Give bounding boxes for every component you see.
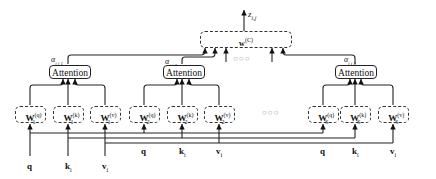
weight-box-q-head-1: W(q)1 [15,106,46,123]
attention-box-head-1: Attention [49,65,91,79]
w-sup: (k) [73,112,80,118]
input-q-label-head-2: q [141,146,146,156]
attention-box-head-s: Attention [335,65,377,79]
w-sup: (q) [327,112,334,118]
w-sup: (v) [397,112,404,118]
w-sup: (q) [35,112,42,118]
weight-box-k-head-1: W(k)1 [53,106,84,123]
input-k-label: ki [65,161,72,173]
input-sub: i [357,152,359,158]
w-sub: 1 [71,119,74,125]
input-base: q [141,146,146,156]
w-sub: 1 [33,119,36,125]
w-sup: (k) [359,112,366,118]
input-v-label-head-2: vi [216,146,222,158]
weight-box-v-head-s: W(v)S [378,106,409,123]
ellipsis-top: ○○○ [233,54,251,63]
output-weight-sup: (C) [245,37,253,43]
w-sup: (v) [224,112,231,118]
output-weight-box: w(C) [200,31,292,48]
input-base: q [27,161,32,171]
w-sup: (q) [149,112,156,118]
w-sub: 2 [185,119,188,125]
input-base: q [320,146,325,156]
weight-box-k-head-s: W(k)S [340,106,371,123]
weight-box-k-head-2: W(k)2 [167,106,198,123]
w-sup: (k) [187,112,194,118]
w-sup: (v) [110,112,117,118]
input-sub: i [107,167,109,173]
output-z-label: zi,j [248,10,256,21]
w-sub: S [395,119,398,125]
weight-box-q-head-2: W(q)2 [129,106,160,123]
weight-box-v-head-2: W(v)2 [204,106,235,123]
weight-box-q-head-s: W(q)S [308,106,339,123]
input-v-label-head-s: vi [390,146,396,158]
weight-box-v-head-1: W(v)1 [90,106,121,123]
w-sub: 1 [108,119,111,125]
input-sub: i [70,167,72,173]
input-sub: i [184,152,186,158]
input-sub: i [221,152,223,158]
input-sub: i [395,152,397,158]
input-k-label-head-2: ki [179,146,186,158]
attention-box-head-2: Attention [163,65,205,79]
input-q-label-head-s: q [320,146,325,156]
w-sub: 2 [222,119,225,125]
w-sub: S [357,119,360,125]
input-v-label: vi [102,161,108,173]
output-z-sub: i,j [252,15,257,21]
input-q-label: q [27,161,32,171]
input-k-label-head-s: ki [352,146,359,158]
w-sub: S [325,119,328,125]
ellipsis-heads: ○○○ [262,108,280,117]
w-sub: 2 [147,119,150,125]
